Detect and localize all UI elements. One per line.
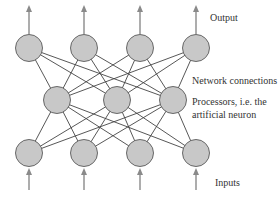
processors-label-line1: Processors, i.e. the <box>192 96 267 107</box>
input-node <box>71 140 98 167</box>
output-node <box>183 35 210 62</box>
output-label: Output <box>210 12 238 23</box>
hidden-layer <box>44 87 187 114</box>
hidden-node <box>160 87 187 114</box>
inputs-label: Inputs <box>215 177 240 188</box>
output-node <box>127 35 154 62</box>
output-arrows <box>26 5 199 34</box>
input-arrows <box>26 168 199 190</box>
input-node <box>16 140 43 167</box>
neural-network-diagram: Output Network connections Processors, i… <box>0 0 280 199</box>
hidden-node <box>104 87 131 114</box>
network-connections-label: Network connections <box>192 75 277 86</box>
processors-label-line2: artificial neuron <box>192 109 256 120</box>
hidden-node <box>44 87 71 114</box>
output-node <box>71 35 98 62</box>
input-node <box>127 140 154 167</box>
input-node <box>183 140 210 167</box>
output-node <box>16 35 43 62</box>
